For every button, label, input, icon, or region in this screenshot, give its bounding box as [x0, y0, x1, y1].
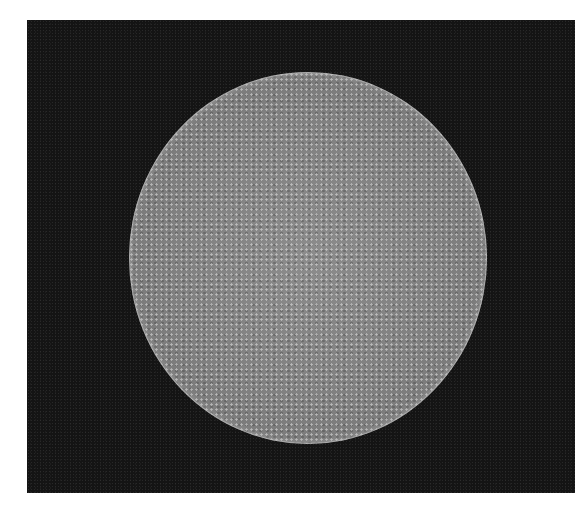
mesh-sphere [129, 72, 487, 444]
